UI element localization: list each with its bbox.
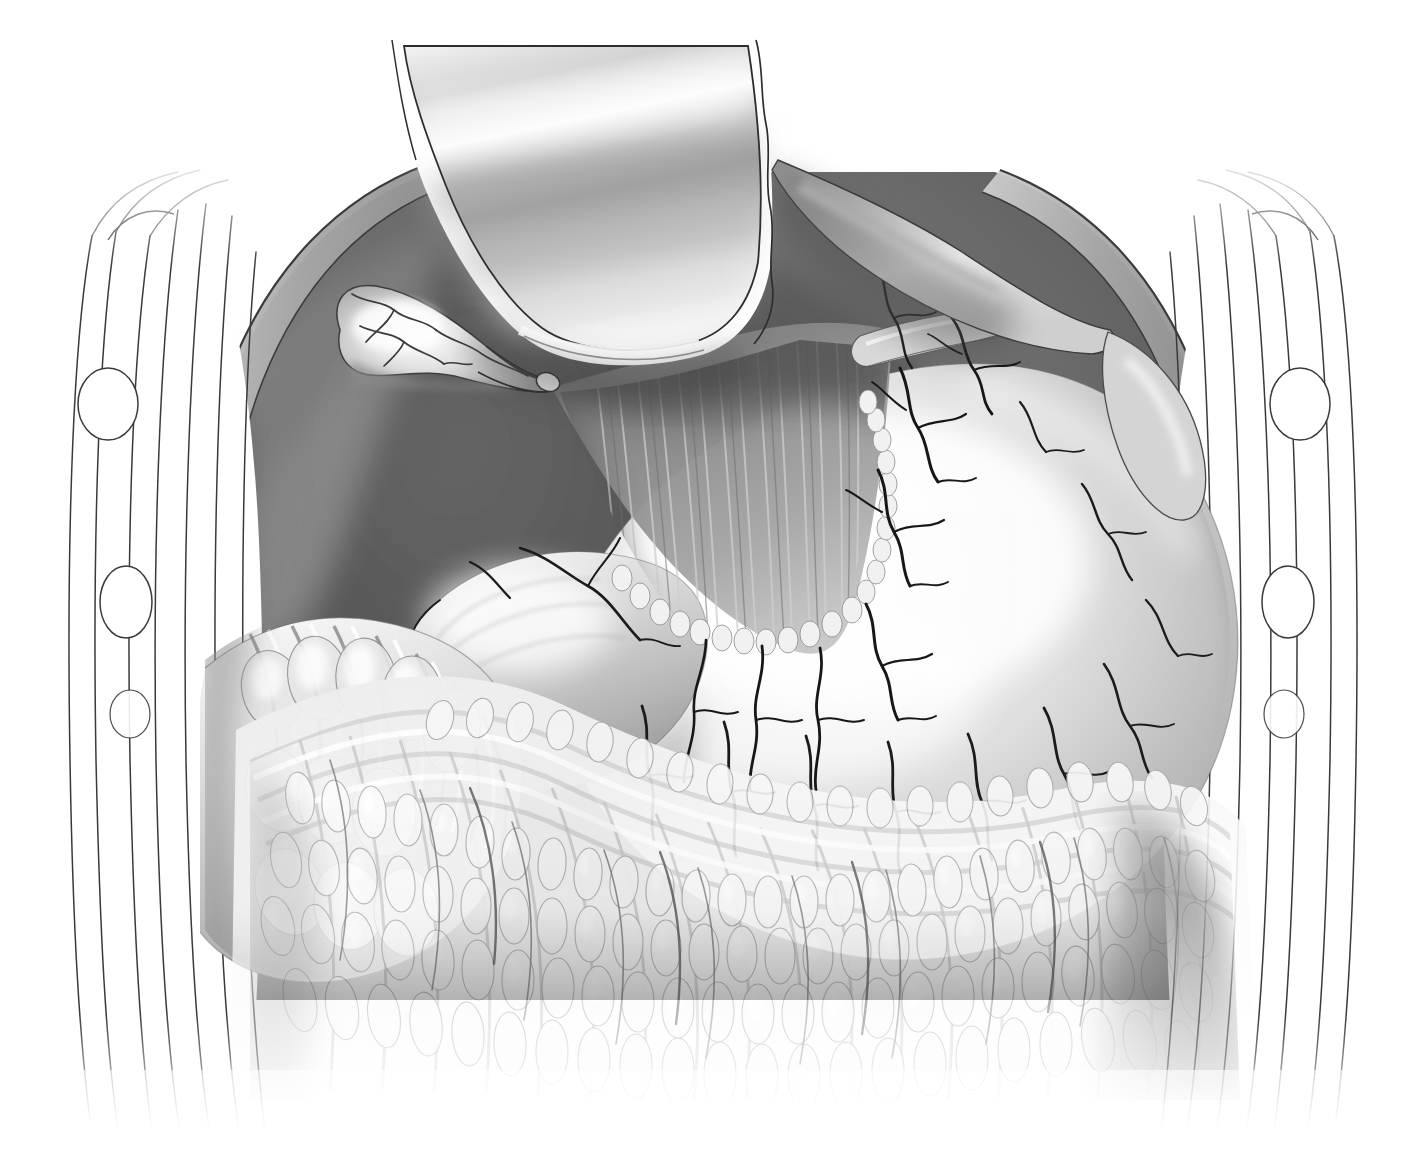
wall-oval-left-lower <box>100 566 152 638</box>
wall-oval-right-upper <box>1270 368 1330 440</box>
wall-oval-left-upper <box>78 368 138 440</box>
illustration-canvas: Upper Abdominal Surgical Exposure Anteri… <box>0 0 1419 1160</box>
anatomical-illustration <box>0 0 1419 1160</box>
wall-oval-right-lower <box>1262 566 1314 638</box>
